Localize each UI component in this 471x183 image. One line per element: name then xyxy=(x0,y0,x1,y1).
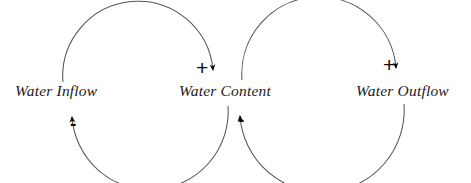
polarity-sign-plus-content: + xyxy=(196,57,208,78)
polarity-sign-plus-outflow: + xyxy=(383,54,395,75)
link-arc-content-to-outflow xyxy=(242,0,396,80)
link-arc-outflow-to-content xyxy=(240,104,404,183)
polarity-sign-minus-inflow: - xyxy=(70,114,76,133)
polarity-sign-minus-content: - xyxy=(238,110,244,129)
diagram-canvas: Water Content --> Water Outflow --> Wate… xyxy=(0,0,471,183)
link-arc-content-to-inflow xyxy=(72,106,228,183)
link-arc-inflow-to-content xyxy=(63,1,213,83)
node-label-water-content[interactable]: Water Content xyxy=(176,82,274,99)
node-label-water-inflow[interactable]: Water Inflow xyxy=(12,82,100,99)
node-label-water-outflow[interactable]: Water Outflow xyxy=(353,82,452,99)
